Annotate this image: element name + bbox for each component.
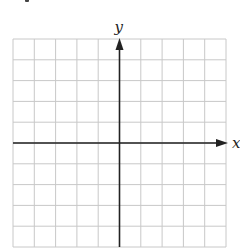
y-axis-arrow-icon	[116, 38, 124, 50]
coordinate-plane: x y	[0, 0, 240, 250]
y-axis-label: y	[114, 18, 124, 36]
x-axis-label: x	[232, 134, 240, 152]
